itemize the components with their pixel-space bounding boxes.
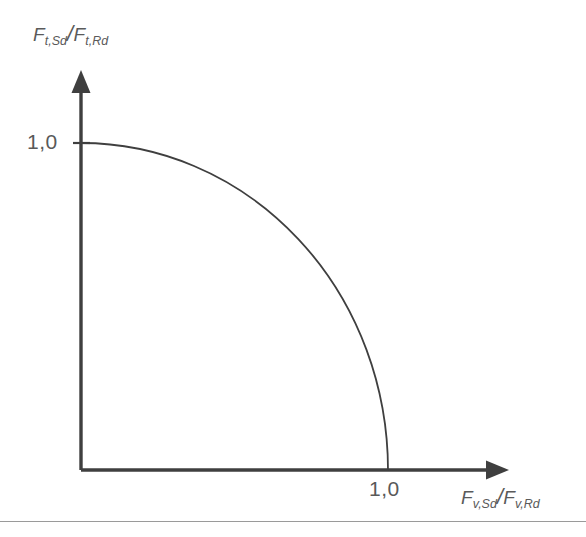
x-axis-title-numerator-subscript: v,Sd	[473, 497, 497, 511]
y-axis-title-denominator-symbol: F	[73, 24, 85, 45]
y-axis-title-numerator-symbol: F	[33, 24, 45, 45]
x-axis-title-denominator-subscript: v,Rd	[515, 497, 540, 511]
y-axis-title: Ft,Sd/Ft,Rd	[33, 21, 108, 48]
x-axis-arrowhead-icon	[486, 461, 509, 480]
x-axis-title: Fv,Sd/Fv,Rd	[461, 484, 540, 511]
interaction-curve	[81, 143, 388, 470]
footer-divider	[0, 521, 586, 522]
axes-group	[72, 70, 510, 480]
y-axis-arrowhead-icon	[72, 70, 91, 93]
y-axis-tick-label: 1,0	[27, 130, 58, 154]
figure-container: Ft,Sd/Ft,Rd Fv,Sd/Fv,Rd 1,0 1,0	[0, 0, 586, 537]
y-axis-title-numerator-subscript: t,Sd	[45, 34, 67, 48]
x-axis-title-denominator-symbol: F	[503, 487, 515, 508]
x-axis-title-numerator-symbol: F	[461, 487, 473, 508]
interaction-diagram-svg	[0, 0, 586, 537]
y-axis-title-denominator-subscript: t,Rd	[85, 34, 108, 48]
x-axis-tick-label: 1,0	[369, 477, 400, 501]
plot-curve-group	[81, 143, 388, 470]
